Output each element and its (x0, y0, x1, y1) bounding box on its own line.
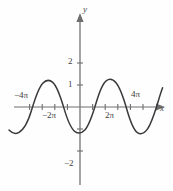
y-axis-label: y (83, 5, 87, 14)
y-tick-label-one: 1 (68, 80, 73, 89)
x-tick-label-neg-two-pi: −2π (42, 111, 56, 120)
sine-graph-figure: x y −4π −2π 2π 4π 1 2 −2 (0, 0, 173, 191)
y-axis-arrowhead (76, 13, 83, 22)
x-axis-label: x (160, 104, 164, 113)
y-tick-label-neg-two: −2 (64, 159, 74, 168)
x-tick-label-two-pi: 2π (105, 111, 114, 120)
y-tick-label-two: 2 (68, 57, 73, 66)
x-tick-label-neg-four-pi: −4π (14, 91, 28, 100)
x-tick-label-four-pi: 4π (131, 90, 140, 99)
